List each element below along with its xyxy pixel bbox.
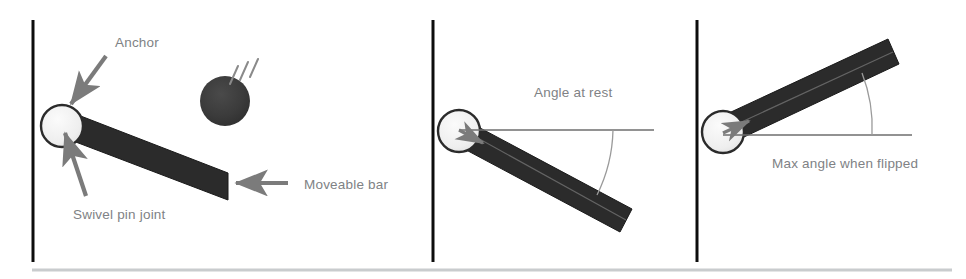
swivel-pin-joint[interactable]	[41, 105, 83, 147]
angle-arc-max-flipped	[862, 73, 872, 135]
label-max-angle-when-flipped: Max angle when flipped	[772, 156, 918, 171]
anchor-arrow	[71, 56, 106, 104]
panel-max-angle-flipped: Max angle when flipped	[697, 20, 918, 262]
angle-arc-at-rest	[597, 130, 613, 195]
panel-angle-at-rest: Angle at rest	[433, 20, 654, 262]
label-anchor: Anchor	[115, 35, 159, 50]
diagram-canvas: Anchor Swivel pin joint Moveable bar	[0, 0, 966, 279]
impacting-ball	[200, 76, 250, 126]
swivel-bar-diagram: Anchor Swivel pin joint Moveable bar	[0, 0, 966, 279]
moveable-bar[interactable]	[60, 108, 228, 200]
panel-anchor-overview: Anchor Swivel pin joint Moveable bar	[33, 20, 389, 262]
label-angle-at-rest: Angle at rest	[534, 85, 612, 100]
label-moveable-bar: Moveable bar	[304, 177, 389, 192]
label-swivel-pin-joint: Swivel pin joint	[73, 207, 166, 222]
